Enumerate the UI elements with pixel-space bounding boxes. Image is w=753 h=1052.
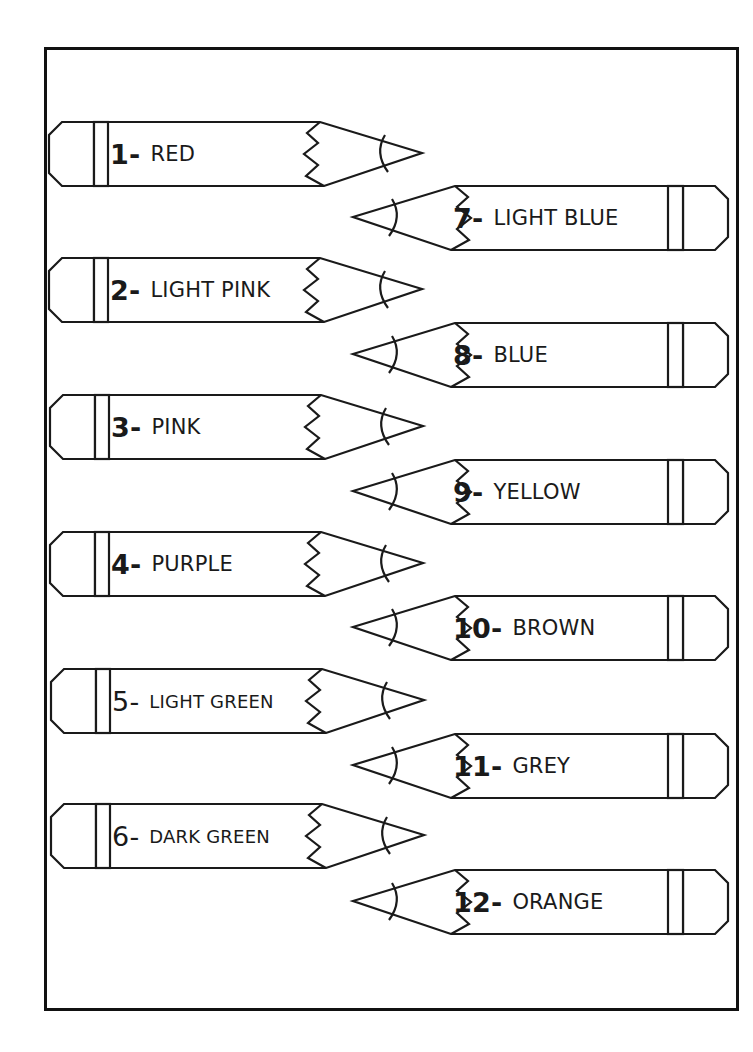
pencil-color-name: BLUE [493,343,548,367]
pencil-label: 12- ORANGE [453,869,603,935]
pencil-number: 9- [453,477,483,508]
pencil-number: 2- [110,275,140,306]
pencil-4-purple: 4- PURPLE [49,531,439,601]
pencil-color-name: DARK GREEN [149,826,270,847]
pencil-6-dark-green: 6- DARK GREEN [50,803,440,873]
pencil-outline-icon [49,394,429,462]
pencil-number: 5- [112,686,139,717]
pencil-label: 2- LIGHT PINK [110,257,270,323]
pencil-number: 8- [453,340,483,371]
pencil-color-name: LIGHT PINK [150,278,270,302]
pencil-number: 11- [453,751,502,782]
pencil-color-name: YELLOW [493,480,580,504]
pencil-color-name: GREY [512,754,570,778]
pencil-1-red: 1- RED [48,121,438,191]
pencil-outline-icon [49,531,429,599]
pencil-outline-icon [48,121,428,189]
pencil-label: 5- LIGHT GREEN [112,668,274,734]
pencil-7-light-blue: 7- LIGHT BLUE [352,185,742,255]
pencil-8-blue: 8- BLUE [352,322,742,392]
pencil-label: 9- YELLOW [453,459,581,525]
pencil-11-grey: 11- GREY [352,733,742,803]
pencil-3-pink: 3- PINK [49,394,439,464]
pencil-number: 10- [453,613,502,644]
pencil-label: 7- LIGHT BLUE [453,185,619,251]
pencil-label: 1- RED [110,121,195,187]
pencil-label: 10- BROWN [453,595,595,661]
pencil-5-light-green: 5- LIGHT GREEN [50,668,440,738]
pencil-9-yellow: 9- YELLOW [352,459,742,529]
pencil-number: 4- [111,549,141,580]
pencil-number: 12- [453,887,502,918]
pencil-12-orange: 12- ORANGE [352,869,742,939]
pencil-color-name: PINK [151,415,200,439]
pencil-color-name: PURPLE [151,552,232,576]
pencil-label: 4- PURPLE [111,531,233,597]
pencil-color-name: LIGHT BLUE [493,206,618,230]
pencil-number: 1- [110,139,140,170]
pencil-number: 7- [453,203,483,234]
pencil-number: 6- [112,821,139,852]
pencil-color-name: BROWN [512,616,595,640]
pencil-label: 3- PINK [111,394,201,460]
pencil-color-name: LIGHT GREEN [149,691,273,712]
pencil-2-light-pink: 2- LIGHT PINK [48,257,438,327]
pencil-label: 11- GREY [453,733,570,799]
pencil-label: 6- DARK GREEN [112,803,270,869]
pencil-color-name: RED [150,142,195,166]
pencil-label: 8- BLUE [453,322,548,388]
pencil-color-name: ORANGE [512,890,603,914]
pencil-number: 3- [111,412,141,443]
pencil-10-brown: 10- BROWN [352,595,742,665]
